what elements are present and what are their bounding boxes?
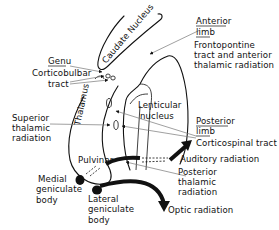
frontopontine-label-3: thalamic radiation — [194, 60, 274, 70]
medial-geniculate-label-1: Medial — [38, 174, 67, 184]
lateral-geniculate-label-1: Lateral — [88, 194, 119, 204]
posterior-thalamic-label-2: thalamic — [178, 177, 216, 187]
superior-thalamic-label-1: Superior — [12, 113, 50, 123]
thalamus-shape — [69, 86, 118, 184]
frontopontine-label-1: Frontopontine — [194, 40, 255, 50]
caudate-nucleus-label: Caudate Nucleus — [100, 1, 156, 65]
genu-fiber-bundles — [95, 74, 118, 130]
medial-geniculate-label-3: body — [36, 195, 58, 205]
posterior-thalamic-label-1: Posterior — [178, 167, 217, 177]
frontopontine-label-2: tract and anterior — [194, 50, 272, 60]
anterior-limb-label-1: Anterior — [196, 16, 232, 26]
corticobulbar-label-2: tract — [48, 79, 69, 89]
lenticular-label-1: Lenticular — [138, 100, 182, 110]
superior-thalamic-label-3: radiation — [12, 133, 51, 143]
corticobulbar-label-1: Corticobulbar — [32, 68, 92, 78]
lateral-geniculate-label-2: geniculate — [88, 204, 134, 214]
lenticular-label-2: nucleus — [140, 111, 174, 121]
superior-thalamic-label-2: thalamic — [12, 123, 50, 133]
auditory-radiation-label: Auditory radiation — [180, 154, 259, 164]
posterior-thalamic-label-3: radiation — [178, 187, 217, 197]
anterior-limb-label-2: limb — [196, 27, 215, 37]
posterior-limb-label-1: Posterior — [196, 116, 235, 126]
posterior-limb-label-2: limb — [196, 126, 215, 136]
internal-capsule-diagram: Caudate Nucleus Thalamus Lenticular nucl… — [0, 0, 279, 230]
lateral-geniculate-label-3: body — [88, 215, 110, 225]
corticospinal-label: Corticospinal tract — [196, 138, 277, 148]
genu-label: Genu — [48, 56, 71, 66]
optic-radiation-label: Optic radiation — [168, 205, 233, 215]
medial-geniculate-label-2: geniculate — [36, 184, 82, 194]
thalamus-label: Thalamus — [72, 82, 91, 127]
